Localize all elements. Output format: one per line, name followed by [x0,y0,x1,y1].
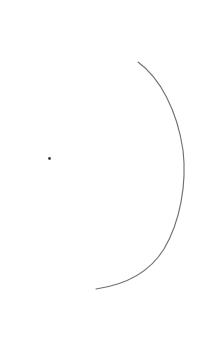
drawing-canvas [0,0,200,353]
canvas-background [0,0,200,353]
sketch-svg [0,0,200,353]
center-point-dot [48,157,51,160]
